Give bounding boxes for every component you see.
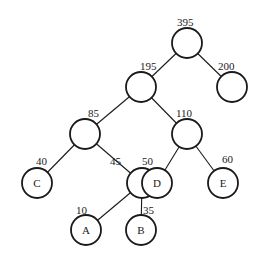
- node-D: 50 D: [142, 155, 172, 198]
- weight-label: 85: [88, 107, 100, 119]
- node-A: 10 A: [71, 204, 101, 245]
- node-label: D: [153, 177, 161, 189]
- node-C: 40 C: [22, 155, 52, 198]
- huffman-tree-diagram: 395 195 200 85 110 40 C 45 50 D 60 E 10 …: [0, 0, 262, 262]
- node-label: A: [82, 224, 90, 236]
- weight-label: 110: [176, 107, 193, 119]
- node-195: 195: [126, 60, 157, 102]
- edges: [37, 43, 232, 230]
- node-label: C: [33, 177, 40, 189]
- weight-label: 10: [76, 204, 88, 216]
- node-label: B: [137, 224, 144, 236]
- node-110: 110: [172, 107, 202, 149]
- weight-label: 395: [177, 16, 194, 28]
- node-85: 85: [70, 107, 100, 149]
- weight-label: 195: [140, 60, 157, 72]
- weight-label: 200: [218, 60, 235, 72]
- node-395: 395: [172, 16, 202, 58]
- weight-label: 50: [142, 155, 154, 167]
- node-E: 60 E: [208, 153, 238, 198]
- weight-label: 40: [36, 155, 48, 167]
- node-label: E: [220, 177, 227, 189]
- weight-label: 60: [222, 153, 234, 165]
- weight-label: 45: [110, 155, 122, 167]
- node-200: 200: [217, 60, 247, 102]
- weight-label: 35: [143, 204, 155, 216]
